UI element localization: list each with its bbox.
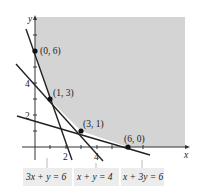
x-axis-label: x — [183, 150, 189, 160]
equation-label-x-plus-3y: x + 3y = 6 — [122, 172, 164, 182]
y-axis-label: y — [27, 14, 33, 24]
vertex-label-0-6: (0, 6) — [40, 46, 61, 57]
equation-label-x-plus-y: x + y = 4 — [76, 172, 113, 182]
vertex-6-0 — [125, 144, 130, 149]
vertex-1-3 — [47, 96, 52, 101]
vertex-label-1-3: (1, 3) — [53, 88, 74, 99]
x-tick-label-4: 4 — [94, 152, 99, 162]
x-axis-arrow-icon — [185, 145, 190, 149]
graph: (0, 6) (1, 3) (3, 1) (6, 0) y x 2 4 2 4 … — [0, 0, 201, 187]
vertex-label-6-0: (6, 0) — [124, 134, 145, 145]
vertex-0-6 — [32, 48, 37, 53]
equation-label-3x-plus-y: 3x + y = 6 — [25, 172, 67, 182]
vertex-3-1 — [78, 128, 83, 133]
y-tick-label-2: 2 — [25, 111, 30, 121]
x-tick-label-2: 2 — [63, 152, 68, 162]
vertex-label-3-1: (3, 1) — [83, 119, 104, 130]
y-tick-label-4: 4 — [25, 79, 30, 89]
